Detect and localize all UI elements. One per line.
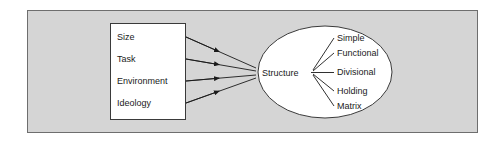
factor-label-environment: Environment bbox=[117, 77, 168, 86]
diagram-connectors bbox=[0, 0, 499, 142]
structure-type-label-matrix: Matrix bbox=[337, 102, 362, 111]
structure-node-label: Structure bbox=[262, 69, 299, 78]
factor-label-ideology: Ideology bbox=[117, 99, 151, 108]
arrowhead-size bbox=[186, 37, 219, 52]
diagram-screenshot: Size Task Environment Ideology Structure… bbox=[0, 0, 499, 142]
factor-label-size: Size bbox=[117, 33, 135, 42]
structure-type-label-divisional: Divisional bbox=[337, 68, 376, 77]
arrowhead-task bbox=[186, 59, 219, 65]
arrowhead-ideology bbox=[186, 91, 219, 103]
arrowhead-environment bbox=[186, 78, 219, 81]
factor-arrow-group bbox=[186, 37, 256, 103]
structure-type-label-holding: Holding bbox=[337, 87, 368, 96]
structure-type-label-simple: Simple bbox=[337, 34, 365, 43]
contingency-factors-box: Size Task Environment Ideology bbox=[110, 23, 186, 120]
structure-type-label-functional: Functional bbox=[337, 49, 379, 58]
factor-label-task: Task bbox=[117, 55, 136, 64]
